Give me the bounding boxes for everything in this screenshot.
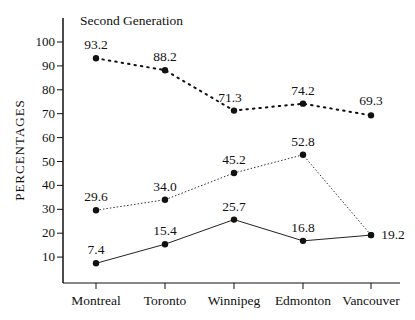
data-point <box>231 216 237 222</box>
data-label: 25.7 <box>222 199 246 214</box>
data-label: 74.2 <box>291 83 315 98</box>
x-tick-label: Toronto <box>144 293 187 308</box>
y-tick-label: 90 <box>42 58 55 73</box>
data-point <box>93 260 99 266</box>
y-tick-label: 70 <box>42 106 55 121</box>
data-label: 19.2 <box>381 227 405 242</box>
data-label: 29.6 <box>84 189 108 204</box>
y-tick-label: 80 <box>42 82 55 97</box>
data-point <box>368 112 374 118</box>
data-point <box>300 100 306 106</box>
data-point <box>162 197 168 203</box>
data-label: 34.0 <box>153 179 177 194</box>
data-point <box>93 55 99 61</box>
x-tick-label: Montreal <box>71 293 121 308</box>
data-label: 88.2 <box>153 49 177 64</box>
data-point <box>162 241 168 247</box>
y-axis-label: PERCENTAGES <box>12 99 27 201</box>
series-line <box>96 220 371 264</box>
data-label: 16.8 <box>291 220 315 235</box>
data-label: 93.2 <box>84 37 108 52</box>
y-tick-label: 60 <box>42 130 55 145</box>
data-point <box>231 107 237 113</box>
series-line <box>96 58 371 115</box>
data-point <box>93 207 99 213</box>
y-tick-label: 100 <box>36 34 56 49</box>
y-tick-label: 30 <box>42 201 55 216</box>
y-tick-label: 20 <box>42 225 55 240</box>
data-point <box>162 67 168 73</box>
line-chart: 102030405060708090100MontrealTorontoWinn… <box>0 0 415 320</box>
data-point <box>300 238 306 244</box>
data-label: 15.4 <box>153 223 177 238</box>
y-tick-label: 50 <box>42 154 55 169</box>
x-tick-label: Vancouver <box>342 293 400 308</box>
y-tick-label: 40 <box>42 177 55 192</box>
chart-title: Second Generation <box>80 13 183 28</box>
data-label: 69.3 <box>359 93 383 108</box>
data-point <box>368 232 374 238</box>
x-tick-label: Edmonton <box>275 293 331 308</box>
data-point <box>300 152 306 158</box>
x-tick-label: Winnipeg <box>208 293 261 308</box>
data-label: 45.2 <box>222 152 246 167</box>
data-label: 71.3 <box>218 90 242 105</box>
data-label: 52.8 <box>291 134 315 149</box>
data-label: 7.4 <box>88 242 105 257</box>
y-tick-label: 10 <box>42 249 55 264</box>
data-point <box>231 170 237 176</box>
